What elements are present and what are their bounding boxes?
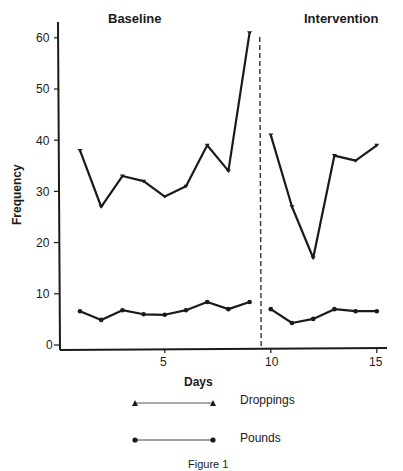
y-axis-label: Frequency bbox=[10, 165, 24, 225]
pounds-point-marker bbox=[205, 300, 210, 305]
droppings-line bbox=[80, 33, 250, 207]
droppings-point-marker bbox=[268, 134, 273, 138]
baseline-phase-label: Baseline bbox=[108, 11, 161, 26]
pounds-point-marker bbox=[247, 300, 252, 305]
pounds-point-marker bbox=[332, 307, 337, 312]
legend-dot-icon bbox=[210, 437, 215, 442]
y-axis-line bbox=[58, 22, 60, 350]
y-tick-20: 20 bbox=[36, 236, 49, 250]
y-tick-50: 50 bbox=[36, 82, 49, 96]
pounds-line bbox=[271, 309, 377, 323]
pounds-point-marker bbox=[99, 318, 104, 323]
intervention-phase-label: Intervention bbox=[304, 11, 378, 26]
x-axis-label: Days bbox=[184, 375, 213, 389]
x-tick-10: 10 bbox=[265, 355, 278, 369]
pounds-point-marker bbox=[290, 321, 295, 326]
series-layer bbox=[78, 31, 380, 325]
chart-canvas bbox=[0, 0, 403, 471]
pounds-point-marker bbox=[78, 309, 83, 314]
pounds-point-marker bbox=[120, 308, 125, 313]
y-tick-10: 10 bbox=[36, 287, 49, 301]
x-tick-5: 5 bbox=[160, 355, 167, 369]
x-axis-line bbox=[60, 348, 387, 350]
pounds-line bbox=[80, 302, 250, 320]
droppings-line bbox=[271, 135, 377, 258]
pounds-point-marker bbox=[353, 309, 358, 314]
droppings-point-marker bbox=[78, 149, 83, 153]
legend-pounds-label: Pounds bbox=[240, 431, 281, 445]
legend-dot-icon bbox=[132, 437, 137, 442]
phase-change-line bbox=[260, 37, 262, 349]
pounds-point-marker bbox=[141, 312, 146, 317]
droppings-point-marker bbox=[311, 256, 316, 260]
droppings-point-marker bbox=[99, 205, 104, 209]
pounds-point-marker bbox=[184, 308, 189, 313]
pounds-point-marker bbox=[269, 307, 274, 312]
legend-droppings-label: Droppings bbox=[240, 393, 295, 407]
y-tick-40: 40 bbox=[36, 134, 49, 148]
pounds-point-marker bbox=[226, 307, 231, 312]
legend bbox=[132, 400, 216, 443]
pounds-point-marker bbox=[311, 317, 316, 322]
figure-caption: Figure 1 bbox=[188, 458, 228, 470]
y-tick-60: 60 bbox=[36, 31, 49, 45]
y-tick-0: 0 bbox=[46, 338, 53, 352]
droppings-point-marker bbox=[226, 169, 231, 173]
pounds-point-marker bbox=[375, 309, 380, 314]
x-tick-15: 15 bbox=[369, 355, 382, 369]
droppings-point-marker bbox=[247, 31, 252, 35]
pounds-point-marker bbox=[163, 312, 168, 317]
y-tick-30: 30 bbox=[36, 185, 49, 199]
axes bbox=[54, 22, 387, 353]
